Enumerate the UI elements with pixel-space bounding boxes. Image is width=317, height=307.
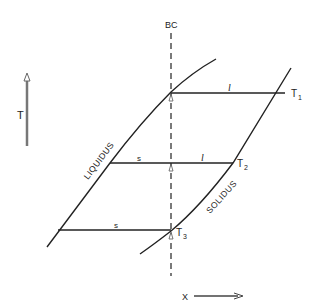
- phase-label-solid-t2: s: [137, 154, 141, 163]
- svg-text:T: T: [237, 158, 243, 169]
- phase-diagram: T BC l s l s T 1 T 2 T 3 LIQUIDUS SOLIDU…: [0, 0, 317, 307]
- svg-text:1: 1: [298, 94, 302, 101]
- solidus-label: SOLIDUS: [204, 178, 239, 215]
- composition-axis-arrow: [194, 293, 243, 299]
- liquidus-curve: [47, 59, 216, 247]
- phase-label-liquid-t1: l: [228, 82, 231, 93]
- svg-text:2: 2: [244, 164, 248, 171]
- svg-text:T: T: [176, 227, 182, 238]
- arrow-up-icon: [169, 94, 173, 101]
- svg-text:3: 3: [183, 233, 187, 240]
- arrow-up-icon: [169, 164, 173, 171]
- arrow-up-icon: [169, 232, 173, 239]
- phase-label-liquid-t2: l: [201, 152, 204, 163]
- solidus-curve: [140, 68, 291, 254]
- svg-text:T: T: [291, 88, 297, 99]
- phase-label-solid-t3: s: [114, 221, 118, 230]
- temperature-label-t1: T 1: [291, 88, 302, 101]
- temperature-label-t2: T 2: [237, 158, 248, 171]
- temperature-label-t3: T 3: [176, 227, 187, 240]
- boundary-line-label: BC: [165, 20, 178, 30]
- temperature-axis-arrow: [24, 73, 30, 146]
- temperature-axis-label: T: [17, 109, 24, 121]
- composition-axis-label: X: [182, 292, 188, 302]
